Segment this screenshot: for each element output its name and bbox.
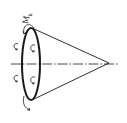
cone-diagram: [0, 0, 127, 123]
moment-arrow-upper-left-icon: [14, 44, 18, 50]
cone-lower-generatrix: [32, 63, 109, 100]
cone-upper-generatrix: [32, 28, 109, 63]
moment-label-subscript: k: [27, 13, 33, 17]
moment-label: Mk: [21, 12, 33, 25]
moment-arrow-lower-left-icon: [14, 76, 18, 82]
